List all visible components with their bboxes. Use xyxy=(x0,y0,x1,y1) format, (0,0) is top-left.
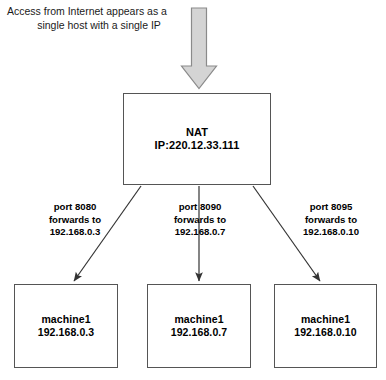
nat-node-address: IP:220.12.33.111 xyxy=(155,139,240,152)
header-note-line-2: single host with a single IP xyxy=(7,18,197,32)
machine-node-0: machine1 192.168.0.3 xyxy=(14,284,118,368)
header-note-line-1: Access from Internet appears as a xyxy=(7,4,197,18)
connector-label-2: port 8095 forwards to 192.168.0.10 xyxy=(281,201,381,239)
nat-node-title: NAT xyxy=(186,126,208,139)
machine-node-1-address: 192.168.0.7 xyxy=(171,326,228,339)
machine-node-1-name: machine1 xyxy=(174,313,223,326)
machine-node-2-address: 192.168.0.10 xyxy=(294,326,357,339)
network-diagram: Access from Internet appears as a single… xyxy=(0,0,386,380)
connector-label-1: port 8090 forwards to 192.168.0.7 xyxy=(152,201,248,239)
header-note: Access from Internet appears as a single… xyxy=(7,4,197,32)
connector-label-1-target: 192.168.0.7 xyxy=(152,226,248,239)
machine-node-1: machine1 192.168.0.7 xyxy=(147,284,251,368)
connector-label-2-port: port 8095 xyxy=(281,201,381,214)
machine-node-0-address: 192.168.0.3 xyxy=(38,326,95,339)
connector-label-0-forwards: forwards to xyxy=(27,214,123,227)
machine-node-2: machine1 192.168.0.10 xyxy=(274,284,377,368)
connector-label-0-port: port 8080 xyxy=(27,201,123,214)
connector-label-2-forwards: forwards to xyxy=(281,214,381,227)
connector-label-0-target: 192.168.0.3 xyxy=(27,226,123,239)
nat-node: NAT IP:220.12.33.111 xyxy=(123,93,271,185)
connector-label-0: port 8080 forwards to 192.168.0.3 xyxy=(27,201,123,239)
machine-node-0-name: machine1 xyxy=(41,313,90,326)
machine-node-2-name: machine1 xyxy=(301,313,350,326)
connector-label-2-target: 192.168.0.10 xyxy=(281,226,381,239)
connector-label-1-port: port 8090 xyxy=(152,201,248,214)
connector-label-1-forwards: forwards to xyxy=(152,214,248,227)
